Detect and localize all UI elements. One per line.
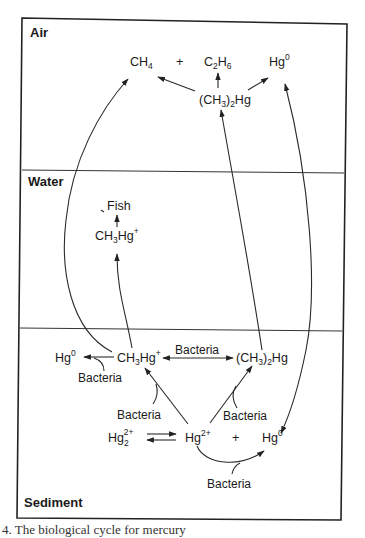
- bacteria-hook-left: [94, 358, 104, 371]
- species-ch4: CH4: [130, 55, 153, 71]
- zone-label-air: Air: [30, 25, 48, 40]
- species-fish: Fish: [107, 199, 131, 213]
- water-sediment-divider: [20, 328, 342, 331]
- diagram-frame: [17, 18, 347, 520]
- arrow-dmhg-to-hg0: [248, 78, 268, 90]
- arrow-hg2-reduction-to-hg0: [197, 446, 264, 462]
- zone-label-water: Water: [28, 174, 64, 189]
- air-water-divider: [22, 170, 344, 173]
- arc-sediment-dimethylmercury-to-air: [221, 110, 262, 350]
- plus-sign-sediment: +: [232, 431, 239, 445]
- species-methylmercury-sediment: CH3Hg+: [117, 348, 161, 367]
- bacteria-label-reduction: Bacteria: [207, 477, 251, 491]
- bacteria-label-methylation-exchange: Bacteria: [175, 343, 219, 357]
- species-methylmercury-water: CH3Hg+: [95, 226, 139, 245]
- species-hg0-air: Hg0: [269, 52, 290, 69]
- arc-sediment-methylmercury-to-ch4: [64, 79, 128, 352]
- fish-tick-mark: [101, 210, 104, 212]
- bacteria-label-dimethylation: Bacteria: [223, 409, 267, 423]
- zone-label-sediment: Sediment: [24, 495, 83, 510]
- arrow-dmhg-to-ch4: [158, 77, 195, 91]
- bacteria-label-demethylation: Bacteria: [78, 371, 122, 385]
- bacteria-hook-reduction: [232, 463, 240, 474]
- species-hg0-sediment-left: Hg0: [55, 348, 76, 365]
- plus-sign-air: +: [176, 55, 183, 69]
- species-hg0-sediment-right: Hg0: [262, 428, 283, 445]
- species-dimethylmercury-sediment: (CH3)2Hg: [236, 351, 288, 367]
- bacteria-label-methylation: Bacteria: [117, 408, 161, 422]
- species-c2h6: C2H6: [204, 55, 232, 71]
- species-dimethylmercury-air: (CH3)2Hg: [199, 93, 251, 109]
- bacteria-hook-methylation: [153, 384, 157, 404]
- figure-caption: 4. The biological cycle for mercury: [2, 522, 186, 538]
- species-mercurous-ion: Hg22+: [108, 427, 133, 448]
- species-mercuric-ion: Hg2+: [185, 428, 211, 445]
- arc-hg0-air-sediment-exchange: [281, 84, 311, 433]
- arc-sediment-to-water-methylmercury: [117, 254, 132, 348]
